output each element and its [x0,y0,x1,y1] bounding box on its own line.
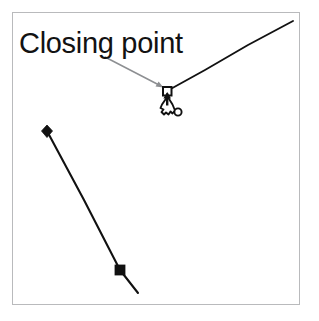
figure-container: Closing point [0,0,319,321]
upper-right-path-segment[interactable] [167,21,293,91]
path-start-diamond-marker[interactable] [42,125,53,138]
callout-label: Closing point [19,27,183,59]
close-path-circle-indicator [174,108,181,115]
callout-leader-line [105,57,160,86]
path-selected-square-marker[interactable] [115,265,125,275]
